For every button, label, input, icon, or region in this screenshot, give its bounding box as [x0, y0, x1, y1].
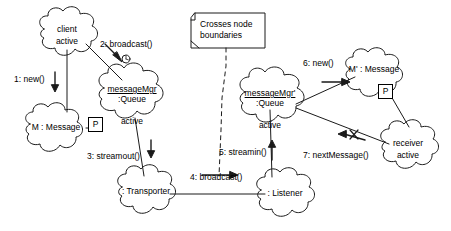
message-label-3: 3: streamout()	[87, 151, 140, 161]
p-badge-message-m-prime: P	[378, 84, 393, 99]
node-label-receiver-state: active	[386, 150, 430, 160]
link-receiver-to-message-mgr-prime	[296, 108, 389, 144]
message-label-5: 5: streamin()	[219, 147, 267, 157]
link-client-to-message-mgr	[86, 44, 122, 80]
node-label-transporter-name: : Transporter	[112, 186, 180, 196]
node-label-message-m-prime-name: M' : Message	[345, 64, 403, 74]
node-label-message-mgr-prime-type: :Queue	[241, 98, 299, 108]
node-label-message-mgr-prime-state: active	[241, 120, 299, 130]
node-label-message-mgr-prime-name: messageMgr'	[241, 88, 299, 98]
message-label-4: 4: broadcast()	[190, 172, 242, 182]
node-label-message-mgr-type: :Queue	[104, 94, 160, 104]
arrowhead-3-streamout	[148, 151, 155, 158]
node-label-client-name: client	[50, 24, 84, 34]
arrowhead-1-new	[52, 85, 59, 92]
link-message-m-prime-badge-to-receiver	[391, 96, 409, 127]
arrowhead-7-nextmessage	[338, 131, 346, 138]
node-label-message-mgr-name: messageMgr	[104, 84, 160, 94]
message-label-1: 1: new()	[14, 74, 45, 84]
node-label-message-m-name: M : Message	[27, 122, 85, 132]
message-label-6: 6: new()	[303, 58, 334, 68]
async-x-marker-icon	[350, 130, 358, 139]
arrowhead-5-streamin	[269, 140, 276, 147]
node-label-client-state: active	[50, 36, 84, 46]
message-label-2: 2: broadcast()	[100, 39, 152, 49]
arrowhead-2-broadcast	[113, 52, 122, 62]
note-fold-diagonal	[191, 41, 199, 48]
message-label-7: 7: nextMessage()	[303, 150, 369, 160]
note-text: Crosses node boundaries	[200, 19, 274, 40]
node-label-listener-name: : Listener	[256, 188, 314, 198]
uml-collaboration-diagram: client active M : Message P messageMgr :…	[0, 0, 451, 231]
node-label-receiver-name: receiver	[386, 138, 430, 148]
node-label-message-mgr-state: active	[104, 116, 160, 126]
p-badge-message-m: P	[88, 117, 103, 132]
